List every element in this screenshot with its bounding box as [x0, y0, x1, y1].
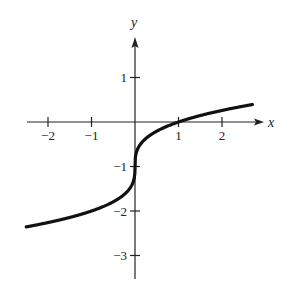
- y-tick-label: −2: [113, 204, 127, 219]
- x-tick-label: −2: [41, 128, 55, 143]
- y-axis-label: y: [129, 15, 138, 30]
- ticks: −2−1121−1−2−3: [41, 70, 225, 263]
- y-tick-label: 1: [121, 70, 128, 85]
- x-axis-label: x: [267, 115, 275, 130]
- y-tick-label: −3: [113, 248, 127, 263]
- function-curve: [26, 105, 252, 227]
- y-tick-label: −1: [113, 159, 127, 174]
- axes: [27, 37, 264, 279]
- x-tick-label: 1: [175, 128, 182, 143]
- x-tick-label: −1: [85, 128, 99, 143]
- graph: −2−1121−1−2−3 x y: [0, 0, 289, 302]
- x-tick-label: 2: [219, 128, 226, 143]
